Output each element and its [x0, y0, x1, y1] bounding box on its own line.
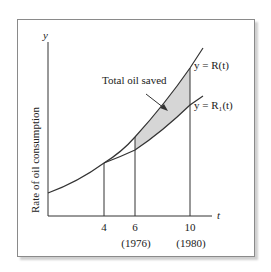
annotation-arrow: [146, 94, 164, 108]
tick-6-year: (1976): [121, 237, 151, 250]
y-axis-symbol: y: [42, 29, 48, 41]
tick-4: 4: [101, 221, 107, 233]
label-R1: y = R₁(t): [194, 99, 233, 112]
x-axis-symbol: t: [217, 209, 221, 221]
tick-6: 6: [132, 221, 138, 233]
annotation-label: Total oil saved: [102, 74, 167, 86]
curve-common: [48, 163, 104, 193]
tick-10: 10: [185, 221, 197, 233]
y-axis-label: Rate of oil consumption: [29, 106, 41, 213]
label-R: y = R(t): [194, 59, 229, 72]
tick-10-year: (1980): [176, 237, 206, 250]
oil-consumption-diagram: y t Rate of oil consumption Total oil sa…: [0, 0, 271, 272]
